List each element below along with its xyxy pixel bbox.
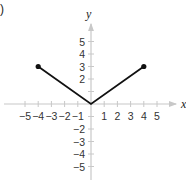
y-tick-label: −2	[73, 123, 85, 135]
plot-area: −5−4−3−2−112345 5432−2−3−4−5 x y	[0, 0, 186, 185]
y-tick-label: 3	[79, 61, 85, 73]
x-tick-label: −4	[32, 110, 44, 122]
x-tick-label: 1	[101, 110, 107, 122]
y-tick-label: −5	[73, 161, 85, 173]
x-tick-label: 5	[154, 110, 160, 122]
y-axis-title: y	[85, 7, 92, 21]
y-tick-label: −3	[73, 136, 85, 148]
x-tick-label: 3	[128, 110, 134, 122]
x-tick-label: −5	[19, 110, 31, 122]
x-tick-label: −1	[72, 110, 84, 122]
x-tick-label: 4	[141, 110, 147, 122]
x-axis-title: x	[180, 97, 186, 111]
y-tick-label: −4	[73, 148, 85, 160]
y-tick-label: 2	[79, 73, 85, 85]
endpoint-dot	[141, 64, 146, 69]
y-tick-label: 5	[79, 36, 85, 48]
y-tick-label: 4	[79, 48, 85, 60]
x-tick-label: 2	[114, 110, 120, 122]
endpoint-dot	[36, 64, 41, 69]
x-tick-label: −3	[45, 110, 57, 122]
x-tick-label: −2	[59, 110, 71, 122]
